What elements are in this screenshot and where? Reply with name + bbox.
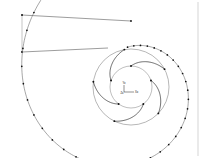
diagram-canvas: Yo Xo Zo: [0, 0, 210, 158]
axis-origin-label: Zo: [121, 91, 125, 95]
node-marker: [157, 112, 159, 114]
node-marker: [184, 117, 186, 119]
node-marker: [182, 73, 184, 75]
node-marker: [153, 47, 155, 49]
node-marker: [142, 103, 144, 105]
node-marker: [33, 12, 35, 14]
node-marker: [188, 98, 190, 100]
node-marker: [63, 149, 65, 151]
node-marker: [146, 45, 148, 47]
node-marker: [150, 157, 152, 158]
impeller-blade: [131, 62, 165, 69]
blade-node-markers: [92, 49, 165, 122]
node-marker: [140, 45, 142, 47]
node-marker: [175, 136, 177, 138]
node-marker: [168, 144, 170, 146]
node-marker: [160, 50, 162, 52]
node-marker: [92, 81, 94, 83]
node-marker: [52, 139, 54, 141]
node-marker: [187, 89, 189, 91]
node-marker: [159, 151, 161, 153]
node-marker: [172, 59, 174, 61]
node-marker: [150, 80, 152, 82]
node-marker: [33, 114, 35, 116]
node-marker: [180, 127, 182, 129]
volute-node-markers: [21, 0, 189, 158]
node-marker: [21, 14, 23, 16]
impeller-blades: [92, 49, 165, 122]
node-marker: [41, 128, 43, 130]
node-marker: [187, 108, 189, 110]
node-marker: [113, 120, 115, 122]
node-marker: [23, 83, 25, 85]
node-marker: [26, 29, 28, 31]
node-marker: [123, 49, 125, 51]
discharge-duct: [21, 14, 132, 53]
mesh-svg: Yo Xo Zo: [0, 0, 210, 158]
node-marker: [166, 54, 168, 56]
node-marker: [22, 48, 24, 50]
node-marker: [177, 66, 179, 68]
node-marker: [133, 45, 135, 47]
node-marker: [127, 46, 129, 48]
node-marker: [164, 68, 166, 70]
node-marker: [185, 81, 187, 83]
impeller-blade: [151, 81, 161, 114]
volute-spiral: [21, 0, 189, 158]
axis-y-label: Yo: [123, 81, 126, 85]
node-marker: [27, 99, 29, 101]
axis-x-label: Xo: [135, 90, 139, 94]
node-marker: [75, 156, 77, 158]
node-marker: [118, 103, 120, 105]
node-marker: [130, 20, 132, 22]
node-marker: [21, 65, 23, 67]
node-marker: [130, 65, 132, 67]
node-marker: [110, 80, 112, 82]
origin-axis-triad: Yo Xo Zo: [121, 81, 139, 95]
